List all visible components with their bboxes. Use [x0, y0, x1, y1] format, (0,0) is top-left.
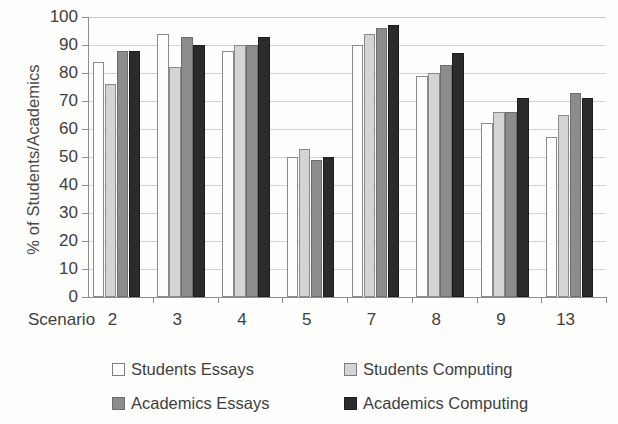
x-axis-tick-label: 2 [82, 310, 142, 330]
bar-chart: % of Students/Academics 0102030405060708… [0, 0, 618, 424]
bar [428, 73, 440, 297]
y-axis-tick-label: 80 [36, 64, 78, 81]
bar [299, 149, 311, 297]
plot-area [88, 17, 606, 297]
x-axis-tick [153, 297, 154, 303]
y-axis-tick [82, 157, 88, 158]
bar-group [541, 17, 606, 297]
y-axis-tick [82, 45, 88, 46]
bar [352, 45, 364, 297]
bar [452, 53, 464, 297]
bar [546, 137, 558, 297]
legend-label: Students Computing [363, 360, 513, 379]
legend-swatch-icon [344, 363, 357, 376]
y-axis-tick [82, 73, 88, 74]
bar [234, 45, 246, 297]
x-axis-tick-label: 3 [147, 310, 207, 330]
y-axis-tick [82, 101, 88, 102]
bar [181, 37, 193, 297]
bar [493, 112, 505, 297]
y-axis-tick [82, 241, 88, 242]
bar [376, 28, 388, 297]
bar [222, 51, 234, 297]
chart-legend: Students EssaysStudents ComputingAcademi… [112, 352, 582, 420]
x-axis-tick-label: 4 [212, 310, 272, 330]
bar [311, 160, 323, 297]
x-axis-tick [412, 297, 413, 303]
bar [416, 76, 428, 297]
y-axis-tick [82, 213, 88, 214]
x-axis-tick [606, 297, 607, 303]
bar-group [477, 17, 542, 297]
x-axis-tick-labels: Scenario 234578913 [0, 305, 618, 339]
legend-label: Academics Computing [363, 394, 528, 413]
bar [323, 157, 335, 297]
y-axis-tick-label: 90 [36, 36, 78, 53]
bar-group [347, 17, 412, 297]
bar [364, 34, 376, 297]
bar [582, 98, 594, 297]
x-axis-tick-label: 8 [406, 310, 466, 330]
legend-label: Academics Essays [131, 394, 269, 413]
y-axis-tick [82, 17, 88, 18]
legend-item[interactable]: Academics Essays [112, 394, 344, 413]
y-axis-tick-label: 100 [36, 8, 78, 25]
x-axis-tick [477, 297, 478, 303]
x-axis-tick-label: 5 [277, 310, 337, 330]
y-axis-tick-label: 20 [36, 232, 78, 249]
x-axis-tick [282, 297, 283, 303]
x-axis-tick-label: 7 [341, 310, 401, 330]
bar [157, 34, 169, 297]
bar [105, 84, 117, 297]
bar [193, 45, 205, 297]
x-axis-tick-label: 13 [536, 310, 596, 330]
y-axis-tick-label: 30 [36, 204, 78, 221]
y-axis-tick [82, 269, 88, 270]
legend-swatch-icon [112, 363, 125, 376]
legend-swatch-icon [112, 397, 125, 410]
bar-group [153, 17, 218, 297]
legend-item[interactable]: Students Essays [112, 360, 344, 379]
bar [481, 123, 493, 297]
legend-swatch-icon [344, 397, 357, 410]
bar [117, 51, 129, 297]
bar [440, 65, 452, 297]
bar [570, 93, 582, 297]
bar [93, 62, 105, 297]
legend-item[interactable]: Academics Computing [344, 394, 582, 413]
y-axis-tick-label: 70 [36, 92, 78, 109]
x-axis-tick [347, 297, 348, 303]
x-axis-tick [541, 297, 542, 303]
x-axis-tick-label: 9 [471, 310, 531, 330]
y-axis-line [88, 17, 89, 298]
bar [169, 67, 181, 297]
bar [287, 157, 299, 297]
y-axis-tick-labels: 0102030405060708090100 [32, 0, 78, 310]
bar [246, 45, 258, 297]
y-axis-tick-label: 0 [36, 288, 78, 305]
bar-group [412, 17, 477, 297]
bar [129, 51, 141, 297]
bar [388, 25, 400, 297]
y-axis-tick-label: 50 [36, 148, 78, 165]
bar [258, 37, 270, 297]
y-axis-tick-label: 40 [36, 176, 78, 193]
y-axis-tick [82, 129, 88, 130]
legend-label: Students Essays [131, 360, 254, 379]
x-axis-tick [218, 297, 219, 303]
bar-group [88, 17, 153, 297]
bar-group [282, 17, 347, 297]
legend-item[interactable]: Students Computing [344, 360, 582, 379]
bar [558, 115, 570, 297]
y-axis-tick-label: 60 [36, 120, 78, 137]
bar [505, 112, 517, 297]
y-axis-tick [82, 297, 88, 298]
bar-group [218, 17, 283, 297]
y-axis-tick [82, 185, 88, 186]
bar [517, 98, 529, 297]
y-axis-tick-label: 10 [36, 260, 78, 277]
